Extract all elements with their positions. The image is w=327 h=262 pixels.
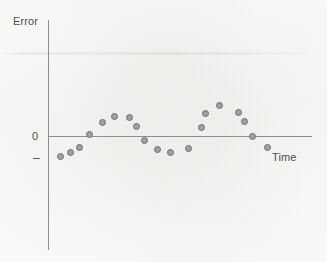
- data-point: [76, 144, 83, 151]
- residual-scatter-figure: Error Time 0 –: [0, 0, 327, 262]
- data-point: [235, 109, 242, 116]
- x-axis-label: Time: [272, 151, 296, 163]
- data-point: [154, 146, 161, 153]
- data-point: [57, 153, 64, 160]
- data-point: [111, 113, 118, 120]
- data-point: [133, 123, 140, 130]
- scan-artifact-streak: [0, 52, 327, 55]
- y-axis-line: [48, 20, 49, 250]
- y-tick-label-negative: –: [33, 151, 40, 165]
- data-point: [185, 145, 192, 152]
- data-point: [249, 133, 256, 140]
- data-point: [167, 149, 174, 156]
- data-point: [67, 149, 74, 156]
- data-point: [126, 114, 133, 121]
- y-tick-label-zero: 0: [32, 130, 38, 142]
- data-point: [99, 119, 106, 126]
- data-point: [216, 102, 223, 109]
- data-point: [241, 118, 248, 125]
- data-point: [141, 137, 148, 144]
- y-axis-label: Error: [13, 15, 38, 27]
- data-point: [198, 124, 205, 131]
- data-point: [264, 144, 271, 151]
- paper-texture: [0, 0, 327, 262]
- data-point: [202, 110, 209, 117]
- data-point: [86, 131, 93, 138]
